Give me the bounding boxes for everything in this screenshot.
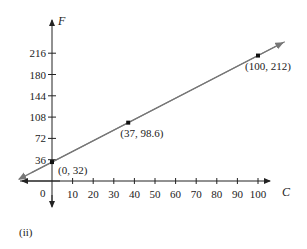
x-axis-label: C — [282, 185, 291, 199]
y-axis-label: F — [57, 14, 66, 28]
figure-caption: (ii) — [19, 226, 32, 238]
y-tick-label: 144 — [30, 90, 47, 102]
chart-svg: FC01020304050607080901003672108144180216… — [0, 0, 307, 249]
x-tick-label: 20 — [88, 188, 100, 200]
x-tick-label: 80 — [211, 188, 223, 200]
axes: FC01020304050607080901003672108144180216 — [20, 14, 291, 207]
data-points: (0, 32)(37, 98.6)(100, 212) — [50, 54, 291, 178]
origin-label: 0 — [40, 187, 46, 199]
x-tick-label: 60 — [170, 188, 182, 200]
data-point — [50, 160, 54, 164]
x-tick-label: 100 — [250, 188, 267, 200]
y-tick-label: 108 — [30, 111, 47, 123]
x-tick-label: 40 — [129, 188, 141, 200]
x-tick-label: 10 — [67, 188, 79, 200]
point-label: (37, 98.6) — [120, 127, 163, 140]
data-point — [126, 121, 130, 125]
y-tick-label: 36 — [35, 154, 47, 166]
x-tick-label: 30 — [108, 188, 120, 200]
y-tick-label: 180 — [30, 69, 47, 81]
y-tick-label: 216 — [30, 47, 47, 59]
data-point — [256, 54, 260, 58]
x-tick-label: 90 — [232, 188, 244, 200]
x-tick-label: 70 — [191, 188, 203, 200]
point-label: (0, 32) — [58, 164, 88, 177]
point-label: (100, 212) — [245, 60, 291, 73]
y-tick-label: 72 — [35, 132, 46, 144]
x-tick-label: 50 — [150, 188, 162, 200]
